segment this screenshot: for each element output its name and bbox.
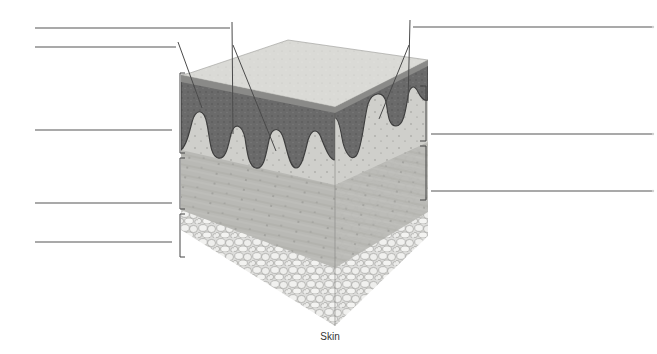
label-left-4	[35, 189, 171, 201]
label-right-2	[433, 120, 651, 132]
label-right-1	[415, 13, 651, 25]
figure-caption: Skin	[300, 331, 360, 342]
label-left-1	[35, 14, 225, 26]
right-label-lines	[413, 26, 654, 192]
label-left-2	[35, 33, 175, 45]
label-left-3	[35, 116, 171, 128]
label-right-3	[433, 177, 651, 189]
label-left-5	[35, 228, 171, 240]
